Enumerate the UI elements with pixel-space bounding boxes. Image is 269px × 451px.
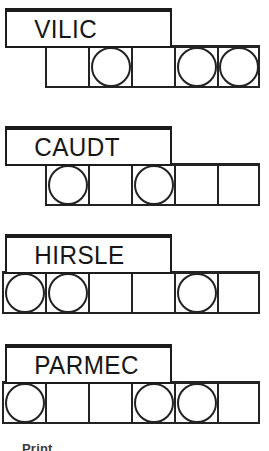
page-caption: Print — [22, 442, 53, 451]
group-caudt-label-text: CAUDT — [7, 135, 120, 160]
group-parmec-label-text: PARMEC — [7, 353, 139, 378]
answer-cell-filled[interactable] — [45, 271, 88, 314]
answer-cell-empty[interactable] — [217, 381, 260, 424]
group-hirsle-label-box: HIRSLE — [5, 234, 172, 274]
answer-cell-empty[interactable] — [131, 271, 174, 314]
answer-cell-empty[interactable] — [174, 163, 217, 206]
circle-icon — [134, 383, 174, 423]
answer-cell-filled[interactable] — [217, 45, 260, 88]
answer-cell-empty[interactable] — [131, 45, 174, 88]
circle-icon — [219, 47, 259, 87]
group-parmec-label-box: PARMEC — [5, 344, 172, 384]
answer-cell-filled[interactable] — [2, 271, 45, 314]
answer-cell-empty[interactable] — [88, 163, 131, 206]
group-vilic-cell-row — [45, 45, 260, 88]
answer-cell-filled[interactable] — [174, 381, 217, 424]
group-caudt-label-box: CAUDT — [5, 126, 172, 166]
answer-cell-empty[interactable] — [88, 381, 131, 424]
group-hirsle-label-text: HIRSLE — [7, 243, 125, 268]
group-vilic-label-box: VILIC — [5, 8, 172, 48]
answer-cell-filled[interactable] — [174, 45, 217, 88]
circle-icon — [177, 383, 217, 423]
answer-cell-filled[interactable] — [2, 381, 45, 424]
group-hirsle-cell-row — [2, 271, 260, 314]
circle-icon — [134, 165, 174, 205]
circle-icon — [177, 273, 217, 313]
circle-icon — [5, 383, 45, 423]
circle-icon — [91, 47, 131, 87]
circle-icon — [48, 165, 88, 205]
circle-icon — [48, 273, 88, 313]
answer-cell-empty[interactable] — [88, 271, 131, 314]
answer-cell-empty[interactable] — [45, 381, 88, 424]
circle-icon — [177, 47, 217, 87]
circle-icon — [5, 273, 45, 313]
group-vilic-label-text: VILIC — [7, 17, 97, 42]
answer-cell-filled[interactable] — [131, 163, 174, 206]
answer-cell-empty[interactable] — [217, 163, 260, 206]
answer-cell-empty[interactable] — [217, 271, 260, 314]
answer-cell-filled[interactable] — [131, 381, 174, 424]
answer-cell-filled[interactable] — [88, 45, 131, 88]
answer-cell-filled[interactable] — [174, 271, 217, 314]
group-parmec-cell-row — [2, 381, 260, 424]
answer-cell-filled[interactable] — [45, 163, 88, 206]
answer-cell-empty[interactable] — [45, 45, 88, 88]
group-caudt-cell-row — [45, 163, 260, 206]
